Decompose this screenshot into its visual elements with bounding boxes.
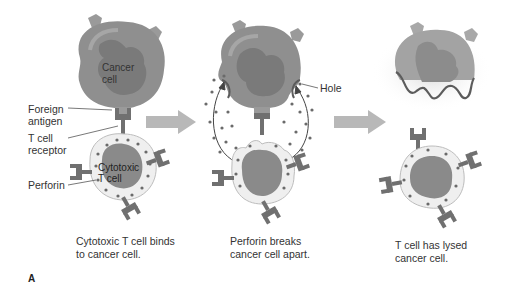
step3-cytotoxic-t-cell: [379, 128, 482, 228]
panel-letter: A: [28, 273, 35, 284]
step-arrow-2: [334, 110, 386, 134]
step1-caption: Cytotoxic T cell binds to cancer cell.: [76, 235, 175, 261]
step1-caption-line1: Cytotoxic T cell binds: [76, 235, 175, 248]
step3-caption: T cell has lysed cancer cell.: [395, 239, 467, 265]
cancer-cell-label-line1: Cancer: [102, 62, 134, 74]
hole-leader-line: [302, 84, 318, 88]
hole-label: Hole: [320, 82, 342, 94]
step2-cancer-cell: [218, 20, 304, 109]
step3-caption-line2: cancer cell.: [395, 252, 467, 265]
foreign-antigen-label: Foreign antigen: [28, 103, 64, 127]
t-cell-receptor-label-line1: T cell: [28, 132, 67, 144]
step2-caption: Perforin breaks cancer cell apart.: [230, 235, 310, 261]
foreign-antigen-label-line1: Foreign: [28, 103, 64, 115]
step2-cytotoxic-t-cell: [212, 141, 310, 225]
cancer-cell-label-line2: cell: [102, 74, 134, 86]
cancer-cell-label: Cancer cell: [102, 62, 134, 86]
step1-caption-line2: to cancer cell.: [76, 248, 175, 261]
step2-caption-line2: cancer cell apart.: [230, 248, 310, 261]
step3-lysed-cancer-cell: [372, 22, 492, 112]
cytotoxic-t-cell-label-line1: Cytotoxic: [98, 162, 139, 173]
cytotoxic-t-cell-label: Cytotoxic T cell: [98, 162, 139, 184]
t-cell-receptor-label: T cell receptor: [28, 132, 67, 156]
step3-caption-line1: T cell has lysed: [395, 239, 467, 252]
step2-caption-line1: Perforin breaks: [230, 235, 310, 248]
foreign-antigen-label-line2: antigen: [28, 115, 64, 127]
step-arrow-1: [146, 110, 196, 134]
t-cell-receptor-label-line2: receptor: [28, 144, 67, 156]
step2-receptor-complex: [254, 107, 270, 135]
cytotoxic-t-cell-label-line2: T cell: [98, 173, 139, 184]
perforin-label: Perforin: [28, 179, 65, 191]
